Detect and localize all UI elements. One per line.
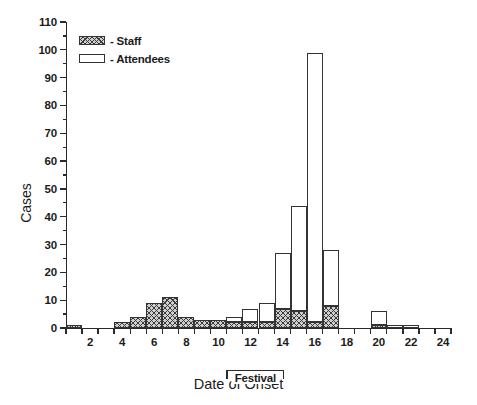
legend-swatch-attendees-icon [79, 54, 105, 63]
bar-segment-staff-day-10 [210, 320, 226, 328]
bar-day-8 [178, 22, 194, 329]
y-tick-label-80: 80 [45, 99, 57, 111]
bar-segment-attendees-day-16 [307, 53, 323, 323]
bar-day-11 [226, 22, 242, 329]
bar-day-15 [291, 22, 307, 329]
bar-day-9 [194, 22, 210, 329]
festival-bracket-cap-right [283, 370, 284, 379]
x-tick-3 [97, 328, 98, 334]
x-tick-label-18: 18 [341, 336, 353, 348]
bar-segment-attendees-day-17 [323, 250, 339, 306]
bar-segment-attendees-day-13 [259, 303, 275, 322]
bar-segment-attendees-day-12 [242, 309, 258, 323]
x-tick-label-24: 24 [437, 336, 449, 348]
chart-legend: - Staff - Attendees [79, 33, 170, 69]
bar-day-17 [323, 22, 339, 329]
y-tick-label-0: 0 [51, 322, 57, 334]
bar-segment-attendees-day-21 [387, 325, 403, 328]
bar-segment-staff-day-20 [371, 325, 387, 328]
festival-label: Festival [232, 372, 279, 384]
bar-segment-staff-day-9 [194, 320, 210, 328]
x-tick-label-22: 22 [405, 336, 417, 348]
y-tick-label-90: 90 [45, 72, 57, 84]
y-tick-label-110: 110 [39, 16, 57, 28]
bar-segment-staff-day-14 [275, 309, 291, 328]
y-tick-label-60: 60 [45, 155, 57, 167]
bar-day-22 [403, 22, 419, 329]
bar-segment-staff-day-13 [259, 322, 275, 328]
y-tick-label-70: 70 [45, 127, 57, 139]
bar-segment-staff-day-15 [291, 311, 307, 328]
x-tick-25 [450, 328, 451, 334]
bar-day-14 [275, 22, 291, 329]
bar-segment-staff-day-1 [66, 325, 82, 328]
bar-segment-staff-day-4 [114, 322, 130, 328]
legend-label-attendees: - Attendees [110, 53, 170, 65]
bar-segment-attendees-day-22 [403, 325, 419, 328]
bar-day-16 [307, 22, 323, 329]
x-tick-label-12: 12 [244, 336, 256, 348]
legend-label-staff: - Staff [110, 35, 141, 47]
bar-segment-staff-day-8 [178, 317, 194, 328]
festival-bracket: Festival [226, 370, 284, 379]
epidemic-curve-chart: Cases Date of Onset 01020304050607080901… [0, 0, 477, 405]
bar-segment-attendees-day-15 [291, 206, 307, 312]
x-tick-label-16: 16 [308, 336, 320, 348]
x-tick-label-2: 2 [87, 336, 93, 348]
y-tick-label-50: 50 [45, 183, 57, 195]
y-tick-label-100: 100 [38, 44, 57, 56]
y-tick-label-10: 10 [45, 294, 57, 306]
bar-segment-staff-day-6 [146, 303, 162, 328]
y-axis-title: Cases [18, 183, 34, 223]
y-tick-label-30: 30 [45, 239, 57, 251]
bar-segment-attendees-day-20 [371, 311, 387, 325]
x-tick-label-14: 14 [276, 336, 288, 348]
x-tick-label-10: 10 [212, 336, 224, 348]
bar-day-12 [242, 22, 258, 329]
y-tick-label-40: 40 [45, 211, 57, 223]
x-tick-24 [434, 328, 435, 334]
bar-segment-staff-day-16 [307, 322, 323, 328]
bar-segment-staff-day-12 [242, 322, 258, 328]
bar-segment-attendees-day-14 [275, 253, 291, 309]
x-tick-label-4: 4 [119, 336, 125, 348]
bar-segment-staff-day-17 [323, 306, 339, 328]
bar-segment-staff-day-7 [162, 297, 178, 328]
bar-day-20 [371, 22, 387, 329]
bar-segment-staff-day-11 [226, 322, 242, 328]
bar-day-10 [210, 22, 226, 329]
bar-segment-staff-day-5 [130, 317, 146, 328]
bar-day-13 [259, 22, 275, 329]
festival-bracket-cap-left [226, 370, 227, 379]
legend-swatch-staff-icon [79, 36, 105, 45]
x-tick-label-8: 8 [183, 336, 189, 348]
y-tick-label-20: 20 [45, 266, 57, 278]
legend-item-staff: - Staff [79, 33, 170, 48]
legend-item-attendees: - Attendees [79, 51, 170, 66]
x-tick-label-6: 6 [151, 336, 157, 348]
x-tick-19 [354, 328, 355, 334]
x-tick-label-20: 20 [373, 336, 385, 348]
bar-day-21 [387, 22, 403, 329]
